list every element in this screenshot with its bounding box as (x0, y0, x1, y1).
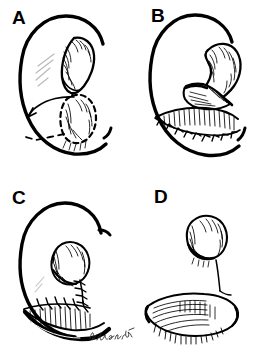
construction-sketch-lines (35, 277, 44, 292)
construction-sketch-lines (36, 54, 54, 86)
panel-b: B (132, 0, 264, 178)
panel-b-artwork (132, 0, 264, 178)
panel-a: A (0, 0, 132, 178)
panel-a-artwork (0, 0, 132, 178)
ear-inner-contour (104, 128, 111, 138)
surgical-technique-figure: A (0, 0, 264, 356)
horizontal-suture-stitches (28, 297, 88, 312)
lobule-upper-edge (220, 291, 231, 295)
panel-d-artwork (132, 178, 264, 356)
reconstructed-tragus-outline (187, 216, 227, 259)
donor-site-wound-line (156, 108, 238, 119)
connecting-contour (216, 260, 220, 291)
horizontal-suture-line (24, 304, 90, 309)
artist-signature (88, 325, 136, 347)
panel-d: D (132, 178, 264, 356)
